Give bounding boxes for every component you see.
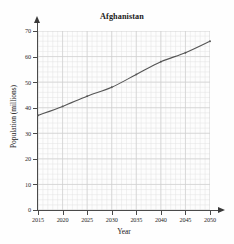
y-axis-tick xyxy=(33,57,38,58)
y-axis-tick-label: 10 xyxy=(9,181,31,188)
x-axis-arrow-icon xyxy=(218,207,225,213)
x-axis-tick xyxy=(161,210,162,215)
y-axis-title: Population (millions) xyxy=(9,57,18,177)
x-axis-tick xyxy=(210,210,211,215)
plot-area xyxy=(38,31,210,210)
x-axis-tick xyxy=(136,210,137,215)
y-axis-tick-label: 70 xyxy=(9,27,31,34)
x-axis-title: Year xyxy=(38,227,210,236)
x-axis-tick-label: 2050 xyxy=(195,216,225,223)
y-axis-line xyxy=(37,22,38,211)
y-axis-tick-label: 0 xyxy=(9,206,31,213)
y-axis-tick xyxy=(33,108,38,109)
x-axis-tick xyxy=(112,210,113,215)
x-axis-tick xyxy=(87,210,88,215)
chart-container: Afghanistan 010203040506070 201520202025… xyxy=(0,0,234,244)
y-axis-tick xyxy=(33,82,38,83)
minor-gridlines xyxy=(38,31,210,210)
y-axis-arrow-icon xyxy=(34,16,40,23)
chart-title: Afghanistan xyxy=(34,12,210,21)
x-axis-tick xyxy=(185,210,186,215)
y-axis-tick xyxy=(33,184,38,185)
x-axis-tick xyxy=(63,210,64,215)
y-axis-tick xyxy=(33,159,38,160)
y-axis-tick xyxy=(33,31,38,32)
major-gridlines xyxy=(38,31,210,210)
x-axis-line xyxy=(38,210,220,211)
y-axis-tick xyxy=(33,133,38,134)
x-axis-tick xyxy=(38,210,39,215)
